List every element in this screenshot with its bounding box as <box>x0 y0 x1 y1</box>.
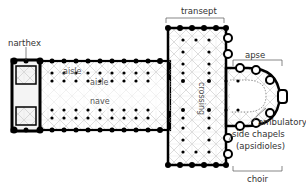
label-choir: choir <box>247 175 268 184</box>
label-nave: nave <box>90 98 110 106</box>
label-side-chapels: side chapels <box>232 130 285 139</box>
label-apse: apse <box>245 51 265 60</box>
narthex-block <box>12 60 40 131</box>
label-narthex: narthex <box>8 39 41 48</box>
label-apsidioles: (apsidioles) <box>236 142 285 151</box>
label-aisle-inner: aisle <box>90 79 108 87</box>
label-aisle-outer: aisle <box>63 68 81 76</box>
label-transept: transept <box>181 7 217 16</box>
label-crossing: crossing <box>197 82 205 115</box>
label-ambulatory: ambulatory <box>258 118 306 127</box>
cathedral-floor-plan <box>0 0 306 189</box>
